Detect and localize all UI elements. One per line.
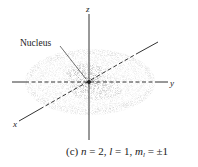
x-axis-label: x — [12, 119, 17, 129]
nucleus-dot — [87, 80, 91, 84]
panel-label: (c) — [66, 145, 78, 157]
y-axis-label: y — [169, 78, 174, 88]
orbital-diagram: Nucleus z y x — [0, 0, 198, 167]
nucleus-label: Nucleus — [20, 38, 51, 48]
caption-ml-value: = ±1 — [145, 145, 168, 157]
caption-n-value: = 2, — [86, 145, 109, 157]
caption-l-value: = 1, — [112, 145, 135, 157]
caption-ml-var: m — [135, 145, 143, 157]
z-axis-label: z — [85, 4, 90, 14]
figure-caption: (c) n = 2, l = 1, ml = ±1 — [66, 145, 198, 159]
